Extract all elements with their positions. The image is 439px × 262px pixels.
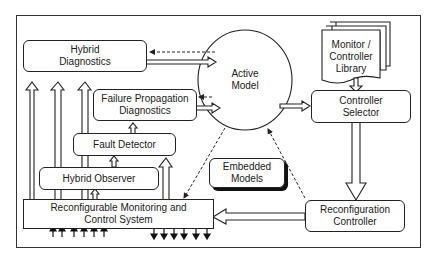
hybrid-diagnostics-label-1: Hybrid	[71, 44, 100, 56]
arrow-rmcs-to-hd-1	[26, 82, 38, 200]
embedded-models-label-2: Models	[231, 173, 263, 185]
failure-propagation-label-1: Failure Propagation	[101, 93, 188, 105]
library-label-1: Monitor /	[322, 39, 380, 51]
arrow-rmcs-to-fd	[159, 158, 172, 200]
arrow-reconf-to-rmcs	[213, 209, 305, 224]
failure-propagation-label-2: Diagnostics	[119, 105, 171, 117]
rmcs-label-2: Control System	[84, 214, 152, 226]
fault-detector-node: Fault Detector	[73, 133, 176, 156]
embedded-models-node: Embedded Models	[209, 158, 285, 188]
rmcs-label-1: Reconfigurable Monitoring and	[50, 202, 186, 214]
hybrid-observer-node: Hybrid Observer	[39, 167, 159, 190]
hybrid-diagnostics-node: Hybrid Diagnostics	[23, 40, 147, 72]
fault-detector-label: Fault Detector	[93, 139, 156, 151]
controller-selector-node: Controller Selector	[311, 90, 411, 123]
controller-selector-label-1: Controller	[339, 95, 382, 107]
controller-selector-label-2: Selector	[343, 107, 380, 119]
active-model-label: Active Model	[215, 68, 275, 92]
embedded-models-label-1: Embedded	[223, 161, 271, 173]
reconfiguration-controller-label-2: Controller	[333, 216, 376, 228]
library-label-3: Library	[322, 63, 380, 75]
arrow-ho-to-fd	[110, 156, 118, 167]
library-label: Monitor / Controller Library	[322, 39, 380, 75]
active-model-label-1: Active	[215, 68, 275, 80]
rmcs-node: Reconfigurable Monitoring and Control Sy…	[23, 199, 214, 229]
arrow-selector-to-reconf	[346, 122, 366, 200]
output-arrows	[151, 228, 210, 239]
hybrid-observer-label: Hybrid Observer	[63, 173, 136, 185]
failure-propagation-node: Failure Propagation Diagnostics	[93, 89, 197, 121]
active-model-label-2: Model	[215, 80, 275, 92]
reconfiguration-controller-node: Reconfiguration Controller	[305, 200, 405, 232]
reconfiguration-controller-label-1: Reconfiguration	[320, 204, 390, 216]
library-label-2: Controller	[322, 51, 380, 63]
hybrid-diagnostics-label-2: Diagnostics	[59, 56, 111, 68]
